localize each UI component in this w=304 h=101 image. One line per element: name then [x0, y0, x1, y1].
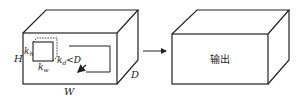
convolution-diagram: H W D kh kw kd<D 输出 — [0, 0, 304, 101]
kernel-height-label: kh — [24, 47, 33, 57]
input-top-face — [23, 10, 138, 33]
output-volume — [172, 10, 289, 84]
kernel-depth-label: kd<D — [57, 56, 81, 66]
output-top-face — [172, 10, 289, 34]
kernel-width-label: kw — [38, 63, 49, 73]
kernel-cube — [33, 38, 57, 61]
width-label: W — [64, 87, 74, 97]
kernel-front-face — [33, 42, 53, 61]
output-label: 输出 — [210, 55, 230, 65]
depth-label: D — [131, 70, 139, 80]
slide-arrow-icon — [78, 65, 86, 72]
height-label: H — [14, 54, 23, 64]
